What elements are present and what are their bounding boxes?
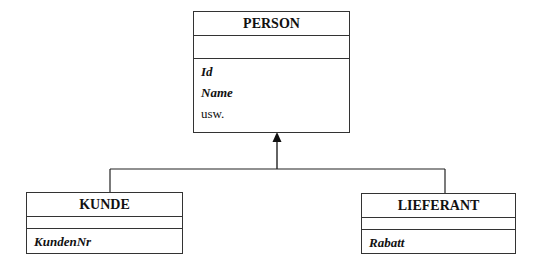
class-name: LIEFERANT <box>362 194 515 218</box>
attribute-etc: usw. <box>201 103 349 124</box>
operations-compartment <box>362 218 515 230</box>
attributes-compartment: Rabatt <box>362 230 515 253</box>
attribute-id: Id <box>201 61 349 82</box>
attribute-name: Name <box>201 82 349 103</box>
generalization-arrow-icon <box>273 132 282 142</box>
class-person: PERSON Id Name usw. <box>193 11 350 133</box>
attributes-compartment: KundenNr <box>27 229 182 252</box>
attribute-rabatt: Rabatt <box>369 232 515 253</box>
operations-compartment <box>194 36 349 59</box>
class-name: PERSON <box>194 12 349 36</box>
attributes-compartment: Id Name usw. <box>194 59 349 124</box>
class-kunde: KUNDE KundenNr <box>26 192 183 254</box>
operations-compartment <box>27 217 182 229</box>
attribute-kundennr: KundenNr <box>34 231 182 252</box>
class-name: KUNDE <box>27 193 182 217</box>
class-lieferant: LIEFERANT Rabatt <box>361 193 516 254</box>
